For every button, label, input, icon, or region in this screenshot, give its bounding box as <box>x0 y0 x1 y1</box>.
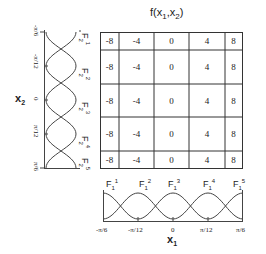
x1-tick-label: -π/6 <box>96 226 107 234</box>
table-cell: 8 <box>225 32 242 50</box>
x2-tick-label: -π/12 <box>32 54 40 69</box>
membership-label-f1-4: F14 <box>203 178 215 191</box>
table-cell: 4 <box>189 151 225 168</box>
table-cell: 4 <box>189 50 225 84</box>
table-cell: -4 <box>119 32 154 50</box>
membership-label-f2-5: F25 <box>78 158 91 170</box>
table-cell: -8 <box>100 50 119 84</box>
table-cell: 8 <box>225 151 242 168</box>
table-cell: 4 <box>189 117 225 151</box>
x1-tick-label: -π/12 <box>128 226 143 234</box>
x2-tick-label: 0 <box>32 97 40 101</box>
table-cell: 8 <box>225 84 242 117</box>
x1-membership-plot <box>103 190 243 222</box>
x2-axis-label: x2 <box>15 92 25 106</box>
x1-tick-label: π/6 <box>236 226 245 234</box>
membership-label-f2-4: F24 <box>78 136 91 148</box>
table-cell: -4 <box>119 84 154 117</box>
membership-label-f2-2: F22 <box>78 68 91 80</box>
table-cell: 4 <box>189 32 225 50</box>
table-cell: 0 <box>154 151 189 168</box>
table-cell: 0 <box>154 84 189 117</box>
table-cell: -4 <box>119 151 154 168</box>
table-cell: 0 <box>154 50 189 84</box>
membership-label-f1-5: F15 <box>233 178 245 191</box>
table-cell: 4 <box>189 84 225 117</box>
table-cell: -8 <box>100 117 119 151</box>
x1-axis-label: x1 <box>167 233 177 247</box>
membership-label-f2-1: F21 <box>78 33 91 45</box>
x2-tick-label: π/6 <box>32 162 40 171</box>
membership-label-f1-2: F12 <box>139 178 151 191</box>
membership-label-f1-3: F13 <box>168 178 180 191</box>
table-cell: -4 <box>119 50 154 84</box>
x2-tick-label: π/12 <box>32 125 40 137</box>
table-cell: -8 <box>100 151 119 168</box>
table-cell: 0 <box>154 117 189 151</box>
table-cell: -8 <box>100 32 119 50</box>
table-cell: 8 <box>225 50 242 84</box>
x2-membership-plot <box>40 30 80 169</box>
x2-tick-label: -π/6 <box>32 25 40 36</box>
table-cell: -8 <box>100 84 119 117</box>
membership-label-f1-1: F11 <box>106 178 118 191</box>
table-cell: 8 <box>225 117 242 151</box>
membership-label-f2-3: F23 <box>78 102 91 114</box>
table-cell: 0 <box>154 32 189 50</box>
table-cell: -4 <box>119 117 154 151</box>
x1-tick-label: π/12 <box>200 226 212 234</box>
